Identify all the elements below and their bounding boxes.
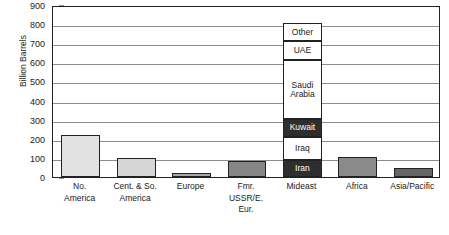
bar bbox=[172, 173, 211, 177]
y-tick-label: 100 bbox=[30, 154, 45, 163]
stack-segment: Iraq bbox=[283, 137, 322, 160]
bar bbox=[228, 161, 267, 177]
stack-segment-label: Kuwait bbox=[290, 123, 316, 132]
y-tick-label: 700 bbox=[30, 40, 45, 49]
bars-container: IranIraqKuwaitSaudiArabiaUAEOther bbox=[53, 7, 439, 177]
stack-segment: Kuwait bbox=[283, 119, 322, 137]
x-category-label: Fmr.USSR/E.Eur. bbox=[218, 181, 273, 216]
bar bbox=[61, 135, 100, 177]
stack-segment: UAE bbox=[283, 41, 322, 60]
bar-column: IranIraqKuwaitSaudiArabiaUAEOther bbox=[283, 7, 322, 177]
x-category-label: Africa bbox=[329, 181, 384, 193]
bar-column bbox=[394, 7, 433, 177]
y-axis-tick-labels: 9008007006005004003002001000 bbox=[12, 6, 45, 178]
oil-reserves-bar-chart: Billion Barrels 900800700600500400300200… bbox=[0, 0, 449, 235]
x-category-label: Europe bbox=[163, 181, 218, 193]
x-category-label: Asia/Pacific bbox=[385, 181, 440, 193]
y-tick-label: 500 bbox=[30, 78, 45, 87]
bar bbox=[394, 168, 433, 177]
y-tick-label: 0 bbox=[40, 174, 45, 183]
y-tick-label: 300 bbox=[30, 116, 45, 125]
stack-segment: Other bbox=[283, 23, 322, 41]
bar bbox=[117, 158, 156, 177]
stack-segment: SaudiArabia bbox=[283, 60, 322, 119]
stack-segment-label: UAE bbox=[294, 46, 311, 55]
y-tick-label: 400 bbox=[30, 97, 45, 106]
x-category-label: Mideast bbox=[274, 181, 329, 193]
x-axis-category-labels: No.AmericaCent. & So.AmericaEuropeFmr.US… bbox=[52, 181, 440, 233]
bar-column bbox=[117, 7, 156, 177]
plot-area: IranIraqKuwaitSaudiArabiaUAEOther bbox=[52, 6, 440, 178]
stack-segment-label: Iran bbox=[295, 164, 310, 173]
bar-column bbox=[228, 7, 267, 177]
y-tick-label: 200 bbox=[30, 135, 45, 144]
bar-column bbox=[172, 7, 211, 177]
stack-segment-label: Other bbox=[292, 28, 313, 37]
x-category-label: No.America bbox=[52, 181, 107, 204]
bar bbox=[338, 157, 377, 177]
y-tick-label: 900 bbox=[30, 2, 45, 11]
y-tick-label: 600 bbox=[30, 59, 45, 68]
stack-segment: Iran bbox=[283, 160, 322, 177]
stack-segment-label: Iraq bbox=[295, 144, 310, 153]
bar-column bbox=[338, 7, 377, 177]
stack-segment-label: SaudiArabia bbox=[290, 81, 315, 99]
x-category-label: Cent. & So.America bbox=[107, 181, 162, 204]
y-tick-label: 800 bbox=[30, 21, 45, 30]
bar-column bbox=[61, 7, 100, 177]
